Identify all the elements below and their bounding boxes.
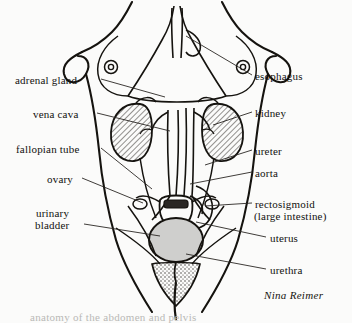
breast-contours bbox=[98, 36, 257, 96]
label-kidney: kidney bbox=[255, 107, 286, 119]
artist-signature: Nina Reimer bbox=[264, 289, 323, 301]
label-urinary: urinary bbox=[36, 207, 69, 219]
label-bladder: bladder bbox=[35, 219, 69, 231]
label-urethra: urethra bbox=[270, 264, 303, 276]
label-rectosigmoid: rectosigmoid bbox=[255, 198, 315, 210]
leader-bladder bbox=[84, 224, 160, 236]
kidney-right bbox=[202, 104, 243, 161]
label-esophagus: esophagus bbox=[255, 70, 303, 82]
label-fallopian-tube: fallopian tube bbox=[16, 143, 80, 155]
label-adrenal-gland: adrenal gland bbox=[15, 74, 77, 86]
label-aorta: aorta bbox=[255, 167, 278, 179]
ribcage-diaphragm bbox=[128, 6, 226, 102]
label-ureter: ureter bbox=[255, 145, 282, 157]
label-large-intestine: (large intestine) bbox=[254, 210, 327, 222]
leader-aorta bbox=[190, 172, 252, 184]
kidney-left bbox=[111, 104, 152, 161]
label-ovary: ovary bbox=[47, 173, 73, 185]
leader-uterus bbox=[196, 222, 266, 237]
leader-ovary bbox=[82, 178, 143, 203]
label-uterus: uterus bbox=[270, 232, 298, 244]
nipple-left bbox=[105, 61, 118, 74]
esophagus bbox=[172, 8, 201, 58]
leader-adrenal-gland bbox=[101, 79, 165, 97]
partial-caption: anatomy of the abdomen and pelvis bbox=[30, 311, 197, 323]
label-vena-cava: vena cava bbox=[33, 108, 78, 120]
